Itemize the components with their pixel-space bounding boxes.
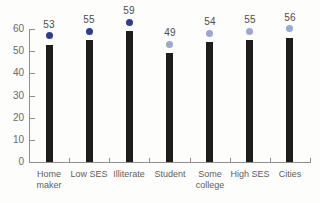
category-label: Cities xyxy=(267,169,313,180)
value-label: 56 xyxy=(275,12,305,23)
bar xyxy=(246,40,253,162)
y-tick-label: 10 xyxy=(0,134,24,145)
data-dot xyxy=(286,25,293,32)
bar xyxy=(46,45,53,162)
data-dot xyxy=(86,28,93,35)
y-axis-tick xyxy=(30,96,35,97)
y-tick-label: 50 xyxy=(0,45,24,56)
x-axis-tick xyxy=(109,158,110,162)
x-axis-tick xyxy=(69,158,70,162)
y-axis-tick xyxy=(30,162,35,163)
value-label: 54 xyxy=(195,16,225,27)
value-label: 55 xyxy=(235,14,265,25)
category-label: Illiterate xyxy=(106,169,152,180)
x-axis-tick xyxy=(149,158,150,162)
value-label: 53 xyxy=(34,19,64,30)
x-axis-tick xyxy=(230,158,231,162)
data-dot xyxy=(246,28,253,35)
value-label: 55 xyxy=(74,14,104,25)
x-axis-tick xyxy=(310,158,311,162)
data-dot xyxy=(206,30,213,37)
x-axis-tick xyxy=(270,158,271,162)
plot-area: 010203040506053Home maker55Low SES59Illi… xyxy=(0,0,320,203)
data-dot xyxy=(46,32,53,39)
value-label: 59 xyxy=(114,5,144,16)
bar xyxy=(286,38,293,162)
x-axis-tick xyxy=(190,158,191,162)
value-label: 49 xyxy=(155,27,185,38)
y-tick-label: 60 xyxy=(0,23,24,34)
bar xyxy=(86,40,93,162)
bar xyxy=(166,53,173,162)
data-dot xyxy=(166,41,173,48)
y-tick-label: 40 xyxy=(0,67,24,78)
y-axis-tick xyxy=(30,118,35,119)
bar xyxy=(126,31,133,162)
y-axis-tick xyxy=(30,73,35,74)
x-axis-line xyxy=(29,162,311,163)
bar-chart: 010203040506053Home maker55Low SES59Illi… xyxy=(0,0,320,203)
y-axis-tick xyxy=(30,51,35,52)
data-dot xyxy=(126,19,133,26)
y-tick-label: 0 xyxy=(0,156,24,167)
y-tick-label: 30 xyxy=(0,90,24,101)
bar xyxy=(206,42,213,162)
y-axis-tick xyxy=(30,140,35,141)
y-tick-label: 20 xyxy=(0,112,24,123)
